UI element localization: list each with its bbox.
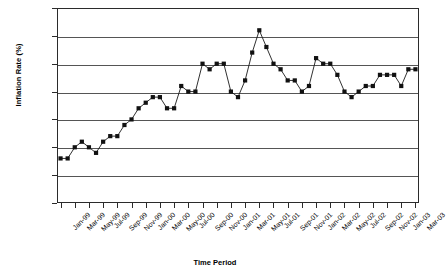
data-point-marker xyxy=(108,134,112,138)
x-axis-tick-mark xyxy=(203,203,204,208)
data-point-marker xyxy=(186,89,190,93)
data-point-marker xyxy=(243,78,247,82)
y-axis-tick-mark xyxy=(52,92,57,93)
data-point-marker xyxy=(222,62,226,66)
x-axis-tick-mark xyxy=(117,203,118,208)
data-point-marker xyxy=(236,95,240,99)
data-point-marker xyxy=(122,123,126,127)
x-axis-tick-mark xyxy=(387,203,388,208)
x-axis-tick-mark xyxy=(288,203,289,208)
data-point-marker xyxy=(144,101,148,105)
y-axis-title: Inflation Rate (%) xyxy=(12,20,26,130)
data-point-marker xyxy=(215,62,219,66)
data-point-marker xyxy=(264,45,268,49)
x-axis-tick-mark xyxy=(330,203,331,208)
data-point-marker xyxy=(66,156,70,160)
series-line xyxy=(61,30,416,158)
data-point-marker xyxy=(286,78,290,82)
x-axis-tick-mark xyxy=(75,203,76,208)
x-axis-tick-mark xyxy=(344,203,345,208)
data-point-marker xyxy=(300,89,304,93)
data-point-marker xyxy=(293,78,297,82)
data-point-marker xyxy=(271,62,275,66)
data-point-marker xyxy=(250,50,254,54)
x-axis-tick-mark xyxy=(217,203,218,208)
data-point-marker xyxy=(80,140,84,144)
data-point-marker xyxy=(101,140,105,144)
x-axis-tick-mark xyxy=(245,203,246,208)
data-point-marker xyxy=(392,73,396,77)
data-point-marker xyxy=(257,28,261,32)
x-axis-tick-mark xyxy=(146,203,147,208)
x-axis-tick-mark xyxy=(302,203,303,208)
x-axis-tick-mark xyxy=(316,203,317,208)
x-axis-tick-mark xyxy=(231,203,232,208)
data-point-marker xyxy=(94,151,98,155)
x-axis-tick-mark xyxy=(373,203,374,208)
x-axis-tick-mark xyxy=(188,203,189,208)
x-axis-tick-mark xyxy=(160,203,161,208)
data-point-marker xyxy=(378,73,382,77)
x-axis-tick-mark xyxy=(273,203,274,208)
data-point-marker xyxy=(137,106,141,110)
x-axis-title: Time Period xyxy=(0,258,430,267)
data-point-marker xyxy=(179,84,183,88)
data-point-marker xyxy=(151,95,155,99)
data-point-marker xyxy=(229,89,233,93)
data-point-marker xyxy=(73,145,77,149)
x-axis-tick-mark xyxy=(132,203,133,208)
data-point-marker xyxy=(342,89,346,93)
data-point-marker xyxy=(115,134,119,138)
data-point-marker xyxy=(129,117,133,121)
data-point-marker xyxy=(385,73,389,77)
data-point-marker xyxy=(321,62,325,66)
y-axis-tick-mark xyxy=(52,119,57,120)
data-point-marker xyxy=(165,106,169,110)
data-point-marker xyxy=(357,89,361,93)
data-point-marker xyxy=(87,145,91,149)
y-axis-tick-mark xyxy=(52,175,57,176)
data-point-marker xyxy=(364,84,368,88)
data-point-marker xyxy=(349,95,353,99)
data-point-marker xyxy=(328,62,332,66)
data-point-marker xyxy=(172,106,176,110)
data-point-marker xyxy=(371,84,375,88)
x-axis-tick-mark xyxy=(174,203,175,208)
x-axis-tick-mark xyxy=(61,203,62,208)
data-point-marker xyxy=(200,62,204,66)
data-point-marker xyxy=(314,56,318,60)
x-axis-tick-mark xyxy=(89,203,90,208)
data-point-marker xyxy=(335,73,339,77)
y-axis-tick-mark xyxy=(52,203,57,204)
data-point-marker xyxy=(193,89,197,93)
x-axis-tick-mark xyxy=(401,203,402,208)
x-axis-tick-mark xyxy=(415,203,416,208)
data-point-marker xyxy=(413,67,417,71)
y-axis-tick-mark xyxy=(52,64,57,65)
y-axis-tick-mark xyxy=(52,147,57,148)
data-point-marker xyxy=(406,67,410,71)
data-point-marker xyxy=(399,84,403,88)
data-point-marker xyxy=(278,67,282,71)
data-point-marker xyxy=(208,67,212,71)
data-point-marker xyxy=(58,156,62,160)
x-axis-tick-mark xyxy=(259,203,260,208)
y-axis-tick-mark xyxy=(52,8,57,9)
y-axis-tick-mark xyxy=(52,36,57,37)
x-axis-tick-mark xyxy=(359,203,360,208)
data-point-marker xyxy=(158,95,162,99)
data-point-marker xyxy=(307,84,311,88)
x-axis-tick-mark xyxy=(103,203,104,208)
data-series-layer xyxy=(57,8,419,203)
